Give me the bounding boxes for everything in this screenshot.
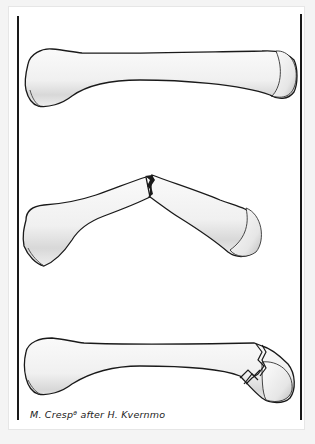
neck-fracture-bone [25, 338, 295, 403]
bone-illustration [0, 0, 315, 444]
intact-bone [25, 49, 297, 107]
angulated-fracture-bone [23, 175, 261, 266]
illustration-credit: M. Crespᶿ after H. Kvernmo [30, 409, 165, 420]
